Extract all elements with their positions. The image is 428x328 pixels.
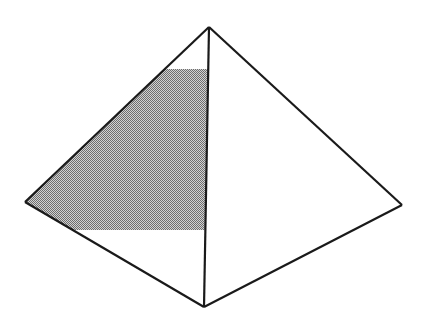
figure-canvas (0, 0, 428, 328)
pyramid-diagram (0, 0, 428, 328)
